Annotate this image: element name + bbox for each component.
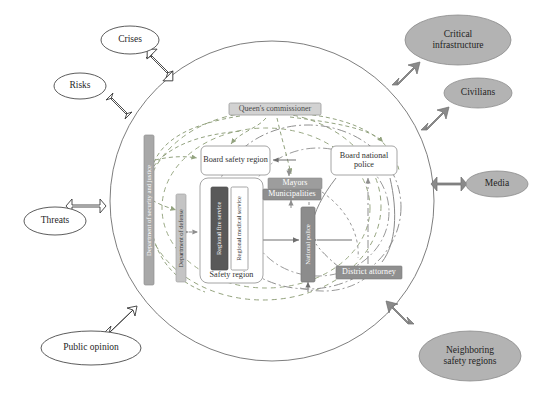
curve-mayors-to-da: [322, 192, 358, 258]
shape-queens-commissioner: [229, 103, 321, 115]
shape-dept-security-justice: [144, 135, 154, 285]
ellipse-neighboring-safety-regions: [419, 331, 521, 381]
ellipse-media: [466, 171, 528, 197]
national-system-boundary: [110, 41, 434, 361]
block-arrow-risks: [106, 93, 132, 119]
ellipse-civilians: [444, 78, 512, 108]
block-arrow-civilians: [421, 107, 449, 130]
ellipse-critical-infrastructure: [405, 15, 511, 65]
ellipse-risks: [54, 73, 106, 99]
block-arrow-media: [431, 177, 467, 191]
ellipse-public-opinion: [41, 331, 141, 365]
shape-regional-medical-service: [231, 187, 248, 270]
ellipse-threats: [24, 207, 86, 235]
shape-municipalities: [263, 189, 321, 200]
dsj-to-dept-defense: [152, 200, 176, 210]
block-arrow-neighboring-safety-regions: [386, 301, 414, 324]
block-arrow-public-opinion: [104, 306, 137, 333]
ellipse-crises: [101, 26, 159, 54]
qc-to-board-national-police: [290, 117, 383, 142]
shape-national-police: [301, 207, 315, 282]
shape-regional-fire-service: [211, 187, 228, 270]
shape-board-national-police: [331, 146, 397, 175]
shape-board-safety-region: [201, 146, 270, 175]
block-arrow-critical-infrastructure: [392, 62, 420, 85]
diagram-canvas: Crises Risks Threats Public opinion Crit…: [0, 0, 545, 397]
qc-to-board-safety: [231, 118, 266, 144]
curve-da-to-national-police: [316, 244, 340, 268]
shape-district-attorney: [336, 266, 402, 279]
shape-dept-defense: [176, 194, 186, 282]
shape-mayors: [268, 178, 322, 189]
diagram-vector-layer: [0, 0, 545, 397]
